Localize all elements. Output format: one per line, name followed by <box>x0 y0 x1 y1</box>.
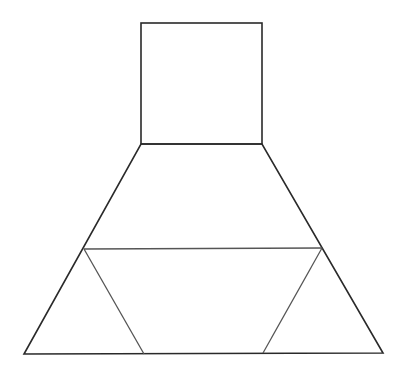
horizontal-divider <box>84 248 322 249</box>
square <box>141 23 262 144</box>
geometry-diagram <box>0 0 403 376</box>
left-diagonal <box>84 249 144 354</box>
right-diagonal <box>263 248 322 353</box>
